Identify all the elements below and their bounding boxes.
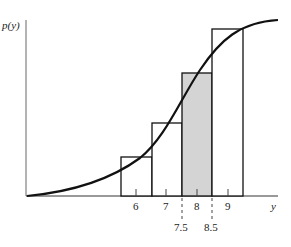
interval-label-8-5: 8.5: [204, 222, 218, 233]
interval-label-7-5: 7.5: [174, 222, 188, 233]
chart-canvas: [0, 0, 291, 247]
x-tick-label-9: 9: [225, 201, 231, 212]
x-tick-label-8: 8: [194, 201, 200, 212]
x-tick-label-6: 6: [133, 201, 139, 212]
bar-7: [152, 123, 182, 196]
x-tick-label-7: 7: [163, 201, 169, 212]
bar-9: [212, 29, 243, 196]
x-axis-label: y: [271, 201, 276, 212]
y-axis-label: p(y): [2, 20, 20, 31]
